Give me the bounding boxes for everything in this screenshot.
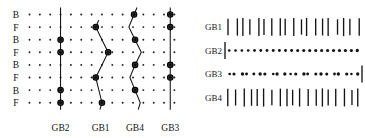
trace-node-core bbox=[134, 89, 136, 91]
grid-dot bbox=[163, 51, 165, 53]
grid-dot bbox=[49, 102, 51, 104]
grid-dot bbox=[142, 64, 144, 66]
strip-dot bbox=[302, 72, 305, 75]
grid-dot bbox=[91, 39, 93, 41]
grid-dot bbox=[111, 89, 113, 91]
grid-dot bbox=[132, 51, 134, 53]
column-label-group: GB2GB1GB4GB3 bbox=[52, 123, 180, 133]
grid-dot bbox=[49, 26, 51, 28]
strip-dot bbox=[325, 72, 328, 75]
grid-dot bbox=[39, 51, 41, 53]
grid-dot bbox=[173, 102, 175, 104]
grid-dot bbox=[70, 77, 72, 79]
strip-dot bbox=[263, 72, 266, 75]
strip-dot bbox=[228, 73, 231, 76]
grid-dot bbox=[39, 89, 41, 91]
grid-dot bbox=[29, 77, 31, 79]
strip-dot bbox=[241, 72, 244, 75]
grid-dot bbox=[173, 89, 175, 91]
grid-dot bbox=[153, 26, 155, 28]
strip-label-GB4: GB4 bbox=[205, 93, 223, 103]
grid-dot bbox=[91, 51, 93, 53]
strip-dot bbox=[350, 73, 353, 76]
row-label-1: B bbox=[13, 10, 19, 20]
grid-dot bbox=[91, 64, 93, 66]
grid-dot bbox=[39, 26, 41, 28]
grid-dot bbox=[49, 77, 51, 79]
grid-dot bbox=[163, 64, 165, 66]
grid-dot bbox=[122, 39, 124, 41]
strip-dot bbox=[266, 49, 269, 52]
grid-dot bbox=[91, 77, 93, 79]
trace-line-GB4 bbox=[129, 8, 141, 110]
trace-node-core bbox=[169, 76, 171, 78]
strip-dot bbox=[337, 72, 340, 75]
grid-dot bbox=[70, 51, 72, 53]
grid-dot bbox=[163, 102, 165, 104]
strip-dot bbox=[345, 72, 348, 75]
strip-label-GB2: GB2 bbox=[205, 46, 222, 56]
grid-dot bbox=[122, 51, 124, 53]
strip-dot bbox=[314, 73, 317, 76]
figure-root: BFBFBFBF GB2GB1GB4GB3 GB1GB2GB3GB4 bbox=[0, 0, 365, 138]
grid-dot bbox=[122, 26, 124, 28]
grid-dot bbox=[91, 89, 93, 91]
row-label-2: F bbox=[13, 23, 18, 33]
grid-dot bbox=[122, 77, 124, 79]
strip-dot bbox=[258, 72, 261, 75]
strip-dot bbox=[245, 73, 248, 76]
grid-dot bbox=[163, 26, 165, 28]
trace-node-core bbox=[95, 26, 97, 28]
strip-dot bbox=[294, 72, 297, 75]
grid-dot bbox=[153, 14, 155, 16]
grid-dot bbox=[49, 51, 51, 53]
row-label-7: B bbox=[13, 86, 19, 96]
grid-dot bbox=[49, 64, 51, 66]
grid-dot bbox=[29, 102, 31, 104]
grid-dot bbox=[70, 39, 72, 41]
trace-node-core bbox=[169, 26, 171, 28]
grid-dot bbox=[29, 89, 31, 91]
grid-dot bbox=[49, 14, 51, 16]
row-label-8: F bbox=[13, 98, 18, 108]
trace-node-core bbox=[59, 51, 61, 53]
grid-dot bbox=[153, 89, 155, 91]
grid-dot bbox=[70, 64, 72, 66]
grid-dot bbox=[173, 64, 175, 66]
strip-dot bbox=[272, 73, 275, 76]
grid-dot bbox=[142, 39, 144, 41]
grid-dot bbox=[142, 51, 144, 53]
grid-dot bbox=[101, 77, 103, 79]
grid-dot bbox=[39, 14, 41, 16]
trace-node-core bbox=[59, 89, 61, 91]
grid-dot bbox=[29, 39, 31, 41]
grid-dot bbox=[91, 102, 93, 104]
grid-dot bbox=[132, 26, 134, 28]
grid-dot bbox=[173, 77, 175, 79]
strip-dot bbox=[241, 49, 244, 52]
column-label-GB4: GB4 bbox=[126, 123, 144, 133]
row-label-4: F bbox=[13, 48, 18, 58]
grid-dot bbox=[142, 89, 144, 91]
grid-dot bbox=[111, 51, 113, 53]
strip-label-GB3: GB3 bbox=[205, 69, 223, 79]
grid-dot bbox=[80, 64, 82, 66]
strip-dot bbox=[332, 49, 335, 52]
strip-dot bbox=[308, 49, 311, 52]
grid-dot bbox=[101, 51, 103, 53]
trace-node-core bbox=[101, 102, 103, 104]
strip-dot bbox=[314, 49, 317, 52]
grid-dot bbox=[29, 51, 31, 53]
right-panel-canvas: GB1GB2GB3GB4 bbox=[196, 0, 365, 138]
grid-dot bbox=[29, 26, 31, 28]
strip-dot bbox=[356, 72, 359, 75]
grid-dot bbox=[49, 89, 51, 91]
trace-node-core bbox=[59, 102, 61, 104]
grid-dot bbox=[163, 14, 165, 16]
grid-dot bbox=[39, 102, 41, 104]
grid-dot bbox=[132, 102, 134, 104]
grid-dot bbox=[163, 89, 165, 91]
grid-dot bbox=[111, 26, 113, 28]
grid-dot bbox=[70, 89, 72, 91]
strip-dot bbox=[320, 49, 323, 52]
